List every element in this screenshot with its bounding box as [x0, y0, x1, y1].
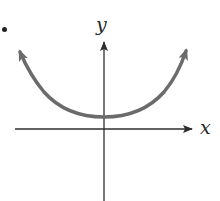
item-marker — [2, 27, 7, 32]
x-axis-label: x — [200, 118, 211, 137]
parabola-figure: y x — [0, 0, 220, 201]
parabola-curve-left — [20, 52, 104, 117]
graph-canvas — [0, 0, 220, 201]
parabola-curve-right — [104, 51, 186, 117]
y-axis-label: y — [96, 15, 107, 34]
